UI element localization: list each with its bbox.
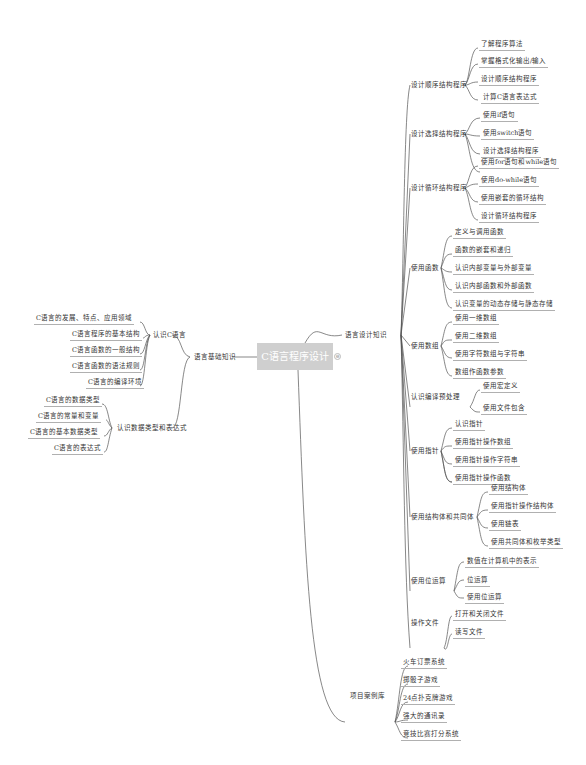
leaf-node[interactable]: C语言的数据类型 <box>44 396 102 407</box>
leaf-node[interactable]: 使用宏定义 <box>481 382 520 393</box>
topic-language-basics[interactable]: 语言基础知识 <box>194 353 236 361</box>
leaf-node[interactable]: 使用指针操作数组 <box>453 438 513 449</box>
leaf-node[interactable]: 打开和关闭文件 <box>453 610 506 621</box>
leaf-node[interactable]: 设计循环结构程序 <box>479 212 539 223</box>
subtopic-know-c[interactable]: 认识C语言 <box>153 331 186 339</box>
subtopic-data-types[interactable]: 认识数据类型和表达式 <box>117 424 187 432</box>
leaf-node[interactable]: 使用if语句 <box>481 111 518 122</box>
leaf-node[interactable]: 24点扑克牌游戏 <box>401 694 455 705</box>
leaf-node[interactable]: 定义与调用函数 <box>453 228 506 239</box>
leaf-node[interactable]: C语言程序的基本结构 <box>70 330 142 341</box>
leaf-node[interactable]: 使用指针操作结构体 <box>489 502 556 513</box>
leaf-node[interactable]: 数值在计算机中的表示 <box>465 557 539 568</box>
leaf-node[interactable]: 掌握格式化输出/输入 <box>479 57 548 68</box>
subtopic-sequential[interactable]: 设计顺序结构程序 <box>411 81 467 89</box>
leaf-node[interactable]: 使用指针操作字符串 <box>453 456 520 467</box>
subtopic-loop[interactable]: 设计循环结构程序 <box>411 184 467 192</box>
leaf-node[interactable]: C语言函数的语法规则 <box>70 362 142 373</box>
leaf-node[interactable]: 使用for语句和while语句 <box>479 158 559 169</box>
leaf-node[interactable]: 读写文件 <box>453 628 485 639</box>
leaf-node[interactable]: C语言的编译环境 <box>86 378 144 389</box>
leaf-node[interactable]: 认识指针 <box>453 420 485 431</box>
leaf-node[interactable]: 设计选择结构程序 <box>481 147 541 158</box>
subtopic-bitwise[interactable]: 使用位运算 <box>411 577 446 585</box>
leaf-node[interactable]: 使用嵌套的循环结构 <box>479 194 546 205</box>
leaf-node[interactable]: C语言函数的一般结构 <box>70 346 142 357</box>
leaf-node[interactable]: C语言的常量和变量 <box>36 412 101 423</box>
subtopic-selection[interactable]: 设计选择结构程序 <box>411 130 467 138</box>
leaf-node[interactable]: 使用字符数组与字符串 <box>453 350 527 361</box>
leaf-node[interactable]: 使用二维数组 <box>453 332 499 343</box>
leaf-node[interactable]: 使用共同体和枚举类型 <box>489 538 563 549</box>
topic-project-cases[interactable]: 项目案例库 <box>350 692 385 700</box>
leaf-node[interactable]: C语言的表达式 <box>52 444 103 455</box>
leaf-node[interactable]: 使用位运算 <box>465 593 504 604</box>
subtopic-functions[interactable]: 使用函数 <box>411 264 439 272</box>
leaf-node[interactable]: 认识内部变量与外部变量 <box>453 264 534 275</box>
leaf-node[interactable]: 设计顺序结构程序 <box>479 75 539 86</box>
leaf-node[interactable]: 函数的嵌套和递归 <box>453 246 513 257</box>
leaf-node[interactable]: 认识内部函数和外部函数 <box>453 282 534 293</box>
leaf-node[interactable]: 位运算 <box>465 576 490 587</box>
leaf-node[interactable]: 认识变量的动态存储与静态存储 <box>453 300 555 311</box>
leaf-node[interactable]: 使用do-while语句 <box>479 176 539 187</box>
collapse-toggle-icon[interactable]: ⊖ <box>334 353 341 360</box>
leaf-node[interactable]: C语言的基本数据类型 <box>28 428 100 439</box>
subtopic-files[interactable]: 操作文件 <box>411 619 439 627</box>
leaf-node[interactable]: 使用链表 <box>489 520 521 531</box>
leaf-node[interactable]: 强大的通讯录 <box>401 712 447 723</box>
subtopic-arrays[interactable]: 使用数组 <box>411 342 439 350</box>
leaf-node[interactable]: 计算C语言表达式 <box>481 93 539 104</box>
leaf-node[interactable]: C语言的发展、特点、应用领域 <box>34 314 134 325</box>
leaf-node[interactable]: 使用文件包含 <box>481 404 527 415</box>
leaf-node[interactable]: 使用switch语句 <box>481 129 534 140</box>
subtopic-preprocessor[interactable]: 认识编译预处理 <box>411 393 460 401</box>
leaf-node[interactable]: 使用结构体 <box>489 484 528 495</box>
leaf-node[interactable]: 数组作函数参数 <box>453 368 506 379</box>
leaf-node[interactable]: 使用一维数组 <box>453 314 499 325</box>
subtopic-pointers[interactable]: 使用指针 <box>411 447 439 455</box>
leaf-node[interactable]: 竞技比赛打分系统 <box>401 730 461 741</box>
subtopic-structs[interactable]: 使用结构体和共同体 <box>411 513 474 521</box>
leaf-node[interactable]: 掷骰子游戏 <box>401 676 440 687</box>
central-topic[interactable]: C语言程序设计 <box>257 343 333 370</box>
leaf-node[interactable]: 了解程序算法 <box>479 40 525 51</box>
topic-language-design[interactable]: 语言设计知识 <box>345 331 387 339</box>
leaf-node[interactable]: 火车订票系统 <box>401 658 447 669</box>
